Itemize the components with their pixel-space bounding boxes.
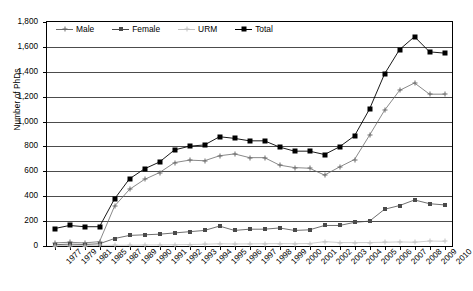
data-point-male bbox=[217, 153, 222, 158]
data-point-male bbox=[322, 173, 327, 178]
series-lines bbox=[47, 22, 452, 246]
data-point-male bbox=[187, 158, 192, 163]
legend-item-female[interactable]: Female bbox=[112, 24, 160, 34]
data-point-total bbox=[382, 72, 387, 77]
data-point-total bbox=[262, 138, 267, 143]
x-axis-tick-label: 1989 bbox=[139, 247, 158, 266]
x-axis-tick-label: 2007 bbox=[409, 247, 428, 266]
data-point-male bbox=[427, 92, 432, 97]
x-axis-tick-label: 1979 bbox=[79, 247, 98, 266]
data-point-female bbox=[443, 203, 447, 207]
y-axis-tick-label: 200 bbox=[24, 216, 38, 225]
legend-label-urm: URM bbox=[197, 24, 217, 34]
data-point-total bbox=[337, 144, 342, 149]
data-point-female bbox=[203, 228, 207, 232]
legend-item-male[interactable]: Male bbox=[56, 24, 94, 34]
data-point-female bbox=[278, 226, 282, 230]
data-point-total bbox=[397, 47, 402, 52]
data-point-female bbox=[308, 228, 312, 232]
data-point-female bbox=[188, 230, 192, 234]
y-axis-tick-label: 1,800 bbox=[18, 17, 39, 26]
data-point-urm bbox=[202, 242, 207, 247]
y-axis-tick-label: 400 bbox=[24, 191, 38, 200]
x-axis-tick-label: 1990 bbox=[154, 247, 173, 266]
legend-label-male: Male bbox=[75, 24, 94, 34]
x-axis-tick-label: 1987 bbox=[124, 247, 143, 266]
x-axis-tick-label: 1999 bbox=[289, 247, 308, 266]
x-axis-tick-label: 2009 bbox=[439, 247, 458, 266]
data-point-urm bbox=[217, 241, 222, 246]
data-point-total bbox=[112, 196, 117, 201]
plot-area bbox=[46, 21, 453, 247]
x-axis-tick-label: 2004 bbox=[364, 247, 383, 266]
data-point-male bbox=[232, 151, 237, 156]
data-point-urm bbox=[352, 240, 357, 245]
x-axis-tick-label: 2000 bbox=[304, 247, 323, 266]
legend-item-urm[interactable]: URM bbox=[178, 24, 217, 34]
x-axis-tick-label: 2006 bbox=[394, 247, 413, 266]
data-point-total bbox=[67, 223, 72, 228]
data-point-urm bbox=[262, 241, 267, 246]
chart-legend: MaleFemaleURMTotal bbox=[56, 24, 273, 34]
data-point-male bbox=[352, 157, 357, 162]
data-point-total bbox=[322, 152, 327, 157]
data-point-female bbox=[218, 224, 222, 228]
data-point-female bbox=[128, 233, 132, 237]
data-point-female bbox=[338, 223, 342, 227]
data-point-male bbox=[337, 164, 342, 169]
data-point-male bbox=[112, 204, 117, 209]
data-point-total bbox=[187, 144, 192, 149]
data-point-urm bbox=[247, 241, 252, 246]
data-point-male bbox=[172, 160, 177, 165]
x-axis-tick-label: 2010 bbox=[454, 247, 473, 266]
data-point-total bbox=[277, 145, 282, 150]
y-axis-tick-label: 1,200 bbox=[18, 91, 39, 100]
data-point-male bbox=[157, 170, 162, 175]
x-axis-tick-label: 2001 bbox=[319, 247, 338, 266]
data-point-total bbox=[292, 149, 297, 154]
y-axis-tick-label: 1,400 bbox=[18, 66, 39, 75]
data-point-male bbox=[277, 163, 282, 168]
data-point-total bbox=[232, 136, 237, 141]
data-point-total bbox=[127, 176, 132, 181]
y-axis-tick-label: 800 bbox=[24, 141, 38, 150]
data-point-male bbox=[382, 108, 387, 113]
data-point-female bbox=[428, 202, 432, 206]
data-point-total bbox=[202, 142, 207, 147]
data-point-total bbox=[352, 133, 357, 138]
data-point-total bbox=[52, 226, 57, 231]
data-point-total bbox=[427, 49, 432, 54]
legend-swatch-female-icon bbox=[112, 25, 129, 33]
data-point-male bbox=[262, 155, 267, 160]
data-point-male bbox=[202, 158, 207, 163]
y-axis-tick-label: 600 bbox=[24, 166, 38, 175]
x-axis-tick-label: 1992 bbox=[184, 247, 203, 266]
data-point-female bbox=[143, 233, 147, 237]
data-point-male bbox=[442, 92, 447, 97]
y-axis-tick-label: 0 bbox=[33, 241, 38, 250]
data-point-total bbox=[307, 149, 312, 154]
x-axis-tick-label: 1993 bbox=[199, 247, 218, 266]
data-point-female bbox=[158, 232, 162, 236]
data-point-male bbox=[292, 165, 297, 170]
data-point-female bbox=[413, 198, 417, 202]
data-point-total bbox=[367, 107, 372, 112]
legend-label-female: Female bbox=[131, 24, 160, 34]
data-point-female bbox=[368, 219, 372, 223]
data-point-urm bbox=[232, 242, 237, 247]
legend-swatch-male-icon bbox=[56, 25, 73, 33]
y-axis-tick-labels: 02004006008001,0001,2001,4001,6001,800 bbox=[0, 0, 42, 291]
data-point-male bbox=[412, 80, 417, 85]
x-axis-tick-label: 2008 bbox=[424, 247, 443, 266]
data-point-female bbox=[263, 227, 267, 231]
data-point-female bbox=[113, 237, 117, 241]
data-point-male bbox=[397, 88, 402, 93]
x-axis-tick-label: 1981 bbox=[94, 247, 113, 266]
data-point-total bbox=[97, 224, 102, 229]
legend-item-total[interactable]: Total bbox=[235, 24, 273, 34]
data-point-total bbox=[157, 160, 162, 165]
data-point-female bbox=[383, 207, 387, 211]
data-point-total bbox=[82, 224, 87, 229]
data-point-urm bbox=[292, 241, 297, 246]
data-point-urm bbox=[277, 241, 282, 246]
